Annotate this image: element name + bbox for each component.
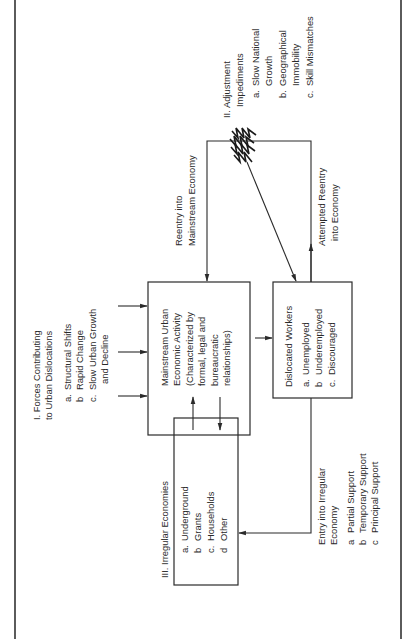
svg-text:Principal Support: Principal Support — [369, 461, 380, 533]
svg-text:into Economy: into Economy — [329, 184, 340, 241]
forces-text-block: I. Forces Contributing to Urban Dislocat… — [31, 309, 110, 420]
svg-text:c.: c. — [326, 380, 337, 387]
svg-text:Economic Activity: Economic Activity — [171, 313, 182, 386]
svg-text:Grants: Grants — [192, 513, 203, 541]
dislocated-box-text: Dislocated Workers a. Unemployed b Under… — [283, 306, 337, 387]
svg-text:Structural Shifts: Structural Shifts — [62, 324, 73, 390]
svg-text:to Urban Dislocations: to Urban Dislocations — [43, 331, 54, 420]
adjustment-barrier-icon — [230, 128, 256, 162]
svg-text:Unemployed: Unemployed — [300, 322, 311, 375]
svg-text:III. Irregular Economies: III. Irregular Economies — [159, 481, 170, 578]
svg-text:c: c — [369, 540, 380, 545]
svg-text:a.: a. — [62, 394, 73, 402]
svg-text:Mainstream Economy: Mainstream Economy — [186, 155, 197, 246]
svg-text:Households: Households — [205, 491, 216, 541]
svg-text:Immobility: Immobility — [290, 43, 301, 86]
urban-dislocation-diagram: I. Forces Contributing to Urban Dislocat… — [0, 0, 404, 639]
mainstream-box-text: Mainstream Urban Economic Activity (Char… — [159, 309, 232, 386]
svg-text:b.: b. — [277, 90, 288, 98]
svg-text:a.: a. — [300, 379, 311, 387]
entry-irregular-text: Entry into Irregular Economy a Partial S… — [316, 453, 380, 545]
blocked-return-arrow — [247, 162, 296, 281]
svg-text:formal, legal and: formal, legal and — [196, 317, 207, 386]
svg-text:Entry into Irregular: Entry into Irregular — [316, 468, 327, 545]
svg-text:Geographical: Geographical — [277, 30, 288, 86]
svg-text:Slow Urban Growth: Slow Urban Growth — [87, 309, 98, 390]
svg-text:c.: c. — [87, 395, 98, 402]
svg-text:(Characterized by: (Characterized by — [184, 312, 195, 386]
svg-text:Discouraged: Discouraged — [326, 322, 337, 375]
svg-text:Economy: Economy — [328, 506, 339, 545]
svg-text:b: b — [74, 397, 85, 402]
reentry-loop-path — [207, 141, 311, 282]
svg-text:Other: Other — [218, 518, 229, 541]
svg-text:Dislocated Workers: Dislocated Workers — [283, 306, 294, 387]
svg-text:Rapid Change: Rapid Change — [74, 330, 85, 390]
svg-text:relationships): relationships) — [221, 330, 232, 386]
svg-text:b: b — [357, 540, 368, 545]
svg-text:Reentry into: Reentry into — [173, 195, 184, 246]
svg-text:d: d — [218, 548, 229, 553]
svg-text:Slow National: Slow National — [250, 29, 261, 86]
svg-text:c.: c. — [205, 546, 216, 553]
svg-text:Underemployed: Underemployed — [313, 309, 324, 375]
svg-text:and Decline: and Decline — [99, 334, 110, 384]
svg-text:b: b — [313, 382, 324, 387]
svg-text:Temporary Support: Temporary Support — [357, 453, 368, 533]
svg-text:a: a — [345, 539, 356, 545]
svg-text:Growth: Growth — [263, 56, 274, 86]
svg-text:b: b — [192, 548, 203, 553]
svg-text:Impediments: Impediments — [234, 53, 245, 107]
svg-text:Skill Mismatches: Skill Mismatches — [304, 16, 315, 86]
svg-text:II. Adjustment: II. Adjustment — [221, 61, 232, 118]
irregular-box-text: III. Irregular Economies a. Underground … — [159, 481, 229, 578]
svg-text:a.: a. — [179, 545, 190, 553]
attempted-reentry-label: Attempted Reentry into Economy — [316, 168, 340, 246]
reentry-label: Reentry into Mainstream Economy — [173, 155, 197, 246]
adjustment-impediments-text: II. Adjustment Impediments a. Slow Natio… — [221, 16, 315, 118]
svg-text:a.: a. — [250, 90, 261, 98]
svg-text:Mainstream Urban: Mainstream Urban — [159, 309, 170, 386]
svg-text:c.: c. — [304, 91, 315, 98]
svg-text:bureaucratic: bureaucratic — [209, 334, 220, 386]
svg-text:Partial Support: Partial Support — [345, 471, 356, 533]
svg-text:I. Forces Contributing: I. Forces Contributing — [31, 330, 42, 420]
svg-text:Attempted Reentry: Attempted Reentry — [316, 168, 327, 246]
svg-text:Underground: Underground — [179, 486, 190, 541]
